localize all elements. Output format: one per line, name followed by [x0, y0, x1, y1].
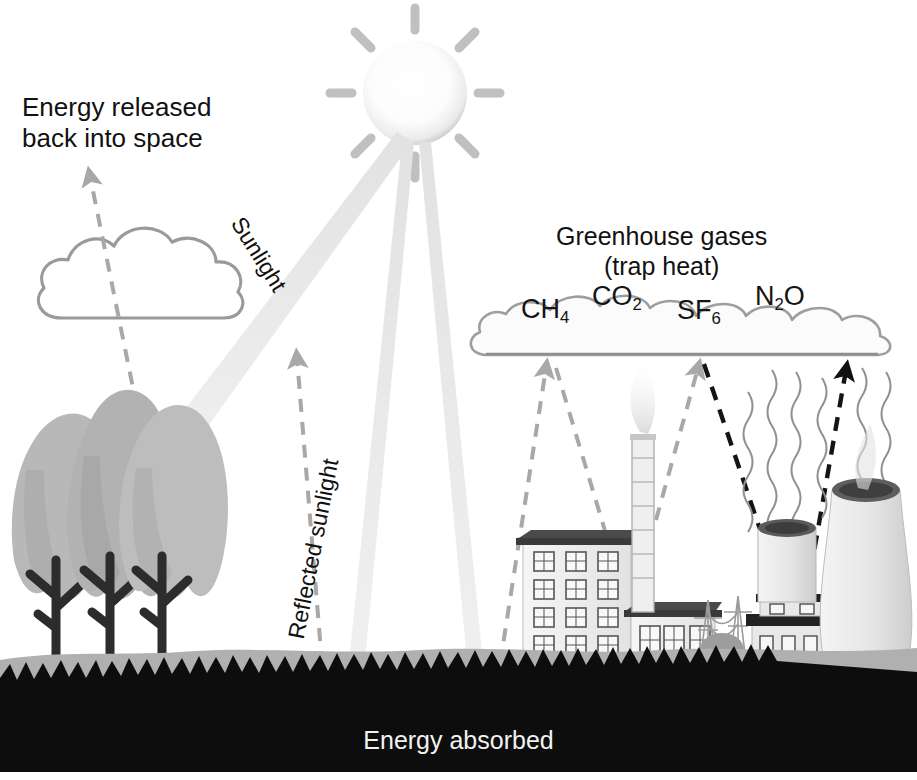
label-energy-released: Energy released back into space	[22, 92, 211, 153]
gas-formula-sub: 6	[712, 309, 721, 328]
arrow-smokestack-to-cloud	[656, 368, 698, 520]
power-plant	[694, 424, 912, 664]
smokestack-smoke	[630, 360, 655, 434]
gas-formula-main: N	[755, 281, 775, 311]
gas-label-carbon-dioxide: CO2	[592, 281, 642, 312]
tree-group	[12, 390, 228, 672]
tree	[119, 405, 228, 672]
gas-formula-main: SF	[677, 295, 712, 325]
gas-label-nitrous-oxide: N2O	[755, 281, 805, 312]
gas-formula-sub: 2	[633, 295, 642, 314]
sun-icon	[330, 8, 500, 178]
factory-building	[516, 434, 722, 662]
gas-formula-tail: O	[784, 281, 805, 311]
gas-label-sulfur-hexafluoride: SF6	[677, 295, 721, 326]
sunbeam-to-ground-right	[419, 142, 484, 672]
label-greenhouse-gases: Greenhouse gases (trap heat)	[556, 222, 767, 281]
smokestack	[630, 434, 656, 612]
gas-label-methane: CH4	[521, 294, 569, 325]
gas-formula-main: CH	[521, 294, 560, 324]
heat-wave	[744, 392, 753, 532]
greenhouse-effect-diagram: Energy released back into space Greenhou…	[0, 0, 917, 780]
cloud-left	[38, 228, 242, 318]
sunbeam-to-ground-left	[348, 142, 414, 672]
gas-formula-sub: 2	[775, 295, 784, 314]
gas-formula-sub: 4	[560, 308, 569, 327]
label-energy-absorbed: Energy absorbed	[0, 726, 917, 756]
gas-formula-main: CO	[592, 281, 633, 311]
